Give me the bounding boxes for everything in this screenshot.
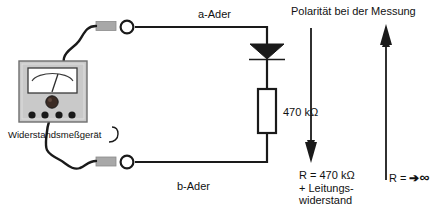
diode-symbol: [249, 44, 285, 60]
right-arrow-icon: ➔: [409, 171, 419, 185]
terminal-b: [121, 156, 134, 169]
meter-jack-3[interactable]: [55, 111, 62, 118]
polarity-arrow-up: [380, 24, 392, 180]
ohmmeter-device[interactable]: [19, 61, 87, 122]
label-polarity-heading: Polarität bei der Messung: [291, 5, 416, 18]
connector-plug-b: [96, 157, 116, 166]
circuit-drawing: [0, 0, 446, 210]
label-result-right: R = ➔∞: [389, 169, 429, 186]
resistor-symbol: [258, 89, 276, 133]
diagram-canvas: a-Ader b-Ader 470 kΩ Widerstandsmeßgerät…: [0, 0, 446, 210]
label-b-ader: b-Ader: [177, 180, 210, 193]
diode-triangle: [250, 44, 284, 59]
circuit-loop: [135, 26, 268, 163]
infinity-icon: ∞: [419, 169, 429, 185]
label-result-left-line3: widerstand: [299, 194, 352, 207]
label-result-left-line1: R = 470 kΩ: [299, 169, 355, 182]
meter-jack-2[interactable]: [41, 111, 48, 118]
meter-jack-1[interactable]: [28, 111, 35, 118]
label-a-ader: a-Ader: [198, 8, 231, 21]
connector-plug-a: [96, 22, 116, 31]
meter-jack-4[interactable]: [68, 111, 75, 118]
meter-range-knob[interactable]: [46, 96, 58, 108]
terminal-a: [121, 21, 134, 34]
meter-label-leader: [109, 127, 118, 142]
label-ohmmeter: Widerstandsmeßgerät: [8, 129, 101, 140]
label-resistor-value: 470 kΩ: [283, 106, 318, 119]
polarity-arrow-down: [305, 28, 317, 163]
meter-knob-highlight: [48, 98, 52, 102]
label-result-right-prefix: R =: [389, 172, 409, 184]
